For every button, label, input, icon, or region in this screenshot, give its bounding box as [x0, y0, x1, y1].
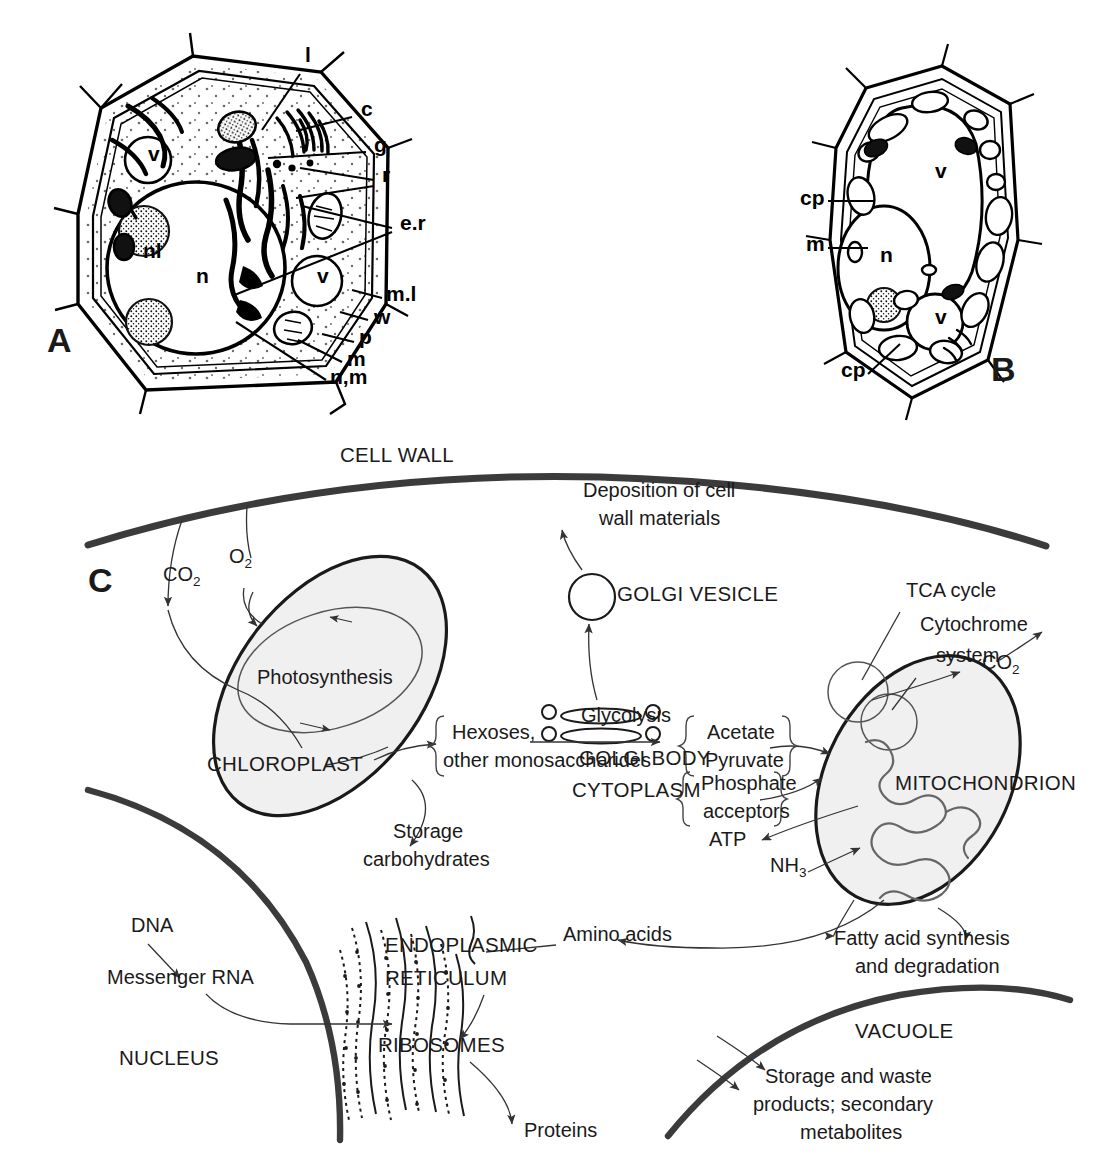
output-label-fatty-2: and degradation: [855, 955, 1000, 977]
organelle-label-chloroplast: CHLOROPLAST: [207, 752, 363, 775]
panel-a-label-r: r: [382, 163, 390, 186]
panel-a-label-p: p: [359, 325, 372, 348]
output-label-vac-2: products; secondary: [753, 1093, 933, 1115]
compartment-label-nucleus: NUCLEUS: [119, 1046, 219, 1069]
organelle-label-golgi-vesicle: GOLGI VESICLE: [617, 582, 778, 605]
metabolite-label-hexoses-1: Hexoses,: [452, 721, 535, 743]
compartment-label-cell-wall: CELL WALL: [340, 443, 454, 466]
organelle-label-er: ENDOPLASMIC: [385, 933, 538, 956]
metabolite-label-mrna: Messenger RNA: [107, 966, 254, 988]
panel-letter-b: B: [991, 350, 1016, 388]
process-label-cytochrome-1: Cytochrome: [920, 613, 1028, 635]
output-label-vac-1: Storage and waste: [765, 1065, 932, 1087]
panel-a-label-l: l: [305, 43, 311, 66]
process-label-glycolysis: Glycolysis: [581, 704, 671, 726]
organelle-label-er2: RETICULUM: [385, 966, 507, 989]
metabolite-label-acetate: Acetate: [707, 721, 775, 743]
metabolite-label-phosphate-1: Phosphate: [701, 772, 797, 794]
compartment-label-vacuole: VACUOLE: [855, 1019, 954, 1042]
panel-letter-a: A: [47, 321, 72, 359]
panel-a-structure-n: n: [196, 264, 209, 287]
panel-a-structure-v-top: v: [148, 142, 160, 165]
panel-a-structure-v-mid: v: [317, 264, 329, 287]
panel-a-structure-nl: nl: [143, 239, 162, 262]
figure-svg: lcgre.rm.lwpmn,mvnlnvAcpmcpvnvBCCELL WAL…: [0, 0, 1104, 1173]
panel-b-structure-v-sml: v: [935, 305, 947, 328]
cell-wall-arc: [88, 476, 1046, 546]
molecule-label-atp: ATP: [709, 828, 746, 850]
panel-b-label-cp-bot: cp: [841, 358, 866, 381]
metabolite-label-pyruvate: Pyruvate: [705, 749, 784, 771]
metabolite-label-phosphate-2: acceptors: [703, 800, 790, 822]
output-label-storage-2: carbohydrates: [363, 848, 490, 870]
metabolite-label-proteins: Proteins: [524, 1119, 597, 1141]
panel-b-label-cp-top: cp: [800, 186, 825, 209]
organelle-label-photosynthesis: Photosynthesis: [257, 666, 393, 688]
panel-a-label-g: g: [374, 133, 387, 156]
panel-b-structure-v-big: v: [935, 159, 947, 182]
figure-canvas: lcgre.rm.lwpmn,mvnlnvAcpmcpvnvBCCELL WAL…: [0, 0, 1104, 1173]
panel-a-label-n-m: n,m: [330, 365, 367, 388]
panel-a-label-c: c: [361, 97, 373, 120]
output-label-storage-1: Storage: [393, 820, 463, 842]
process-label-tca: TCA cycle: [906, 579, 996, 601]
compartment-label-cytoplasm: CYTOPLASM: [572, 778, 701, 801]
organelle-label-mitochondrion: MITOCHONDRION: [895, 771, 1076, 794]
organelle-label-ribosomes: RIBOSOMES: [378, 1033, 505, 1056]
panel-letter-c: C: [88, 561, 113, 599]
output-label-vac-3: metabolites: [800, 1121, 902, 1143]
metabolite-label-hexoses-2: other monosaccharides: [443, 749, 651, 771]
panel-a-label-m-l: m.l: [386, 282, 416, 305]
output-label-deposition-2: wall materials: [598, 507, 720, 529]
nucleus-arc: [88, 790, 340, 1140]
molecule-label-nh3: NH3: [770, 854, 806, 880]
process-label-cytochrome-2: system: [936, 644, 999, 666]
output-label-fatty-1: Fatty acid synthesis: [834, 927, 1010, 949]
panel-b-structure-n: n: [880, 243, 893, 266]
metabolite-label-amino-acids: Amino acids: [563, 923, 672, 945]
panel-b-label-m: m: [806, 232, 825, 255]
metabolite-label-dna: DNA: [131, 914, 174, 936]
golgi-vesicle-shape: [569, 574, 615, 620]
panel-a-label-w: w: [373, 305, 391, 328]
output-label-deposition-1: Deposition of cell: [583, 479, 735, 501]
panel-a-label-e-r: e.r: [400, 211, 426, 234]
